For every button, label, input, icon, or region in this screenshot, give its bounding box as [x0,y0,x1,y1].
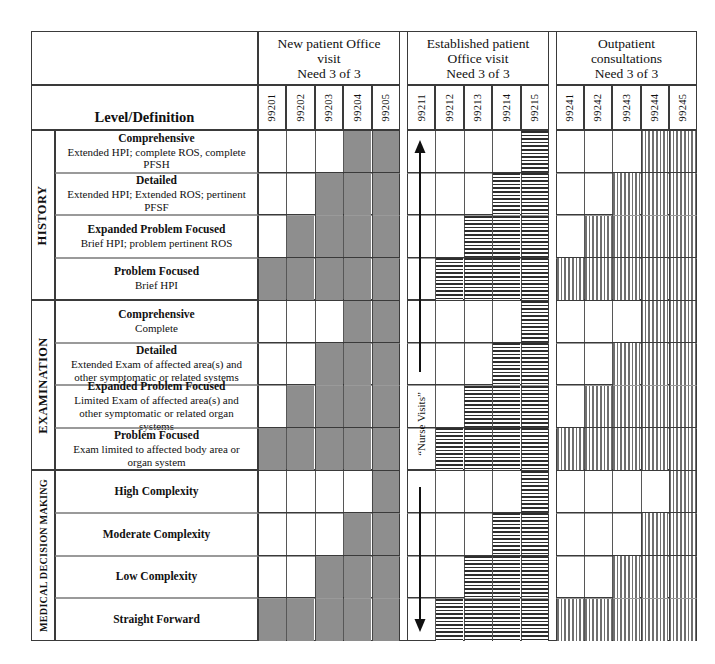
marked-cell-99201[interactable] [259,599,286,641]
marked-cell-99215[interactable] [521,216,548,258]
marked-cell-99201[interactable] [259,258,286,300]
marked-cell-99205[interactable] [372,301,399,343]
marked-cell-99214[interactable] [493,599,520,641]
marked-cell-99205[interactable] [372,599,399,641]
marked-cell-99204[interactable] [344,173,371,215]
marked-cell-99204[interactable] [344,301,371,343]
marked-cell-99203[interactable] [315,216,342,258]
marked-cell-99213[interactable] [464,216,491,258]
marked-cell-99204[interactable] [344,599,371,641]
marked-cell-99244[interactable] [641,131,668,173]
marked-cell-99244[interactable] [641,386,668,428]
marked-cell-99243[interactable] [613,386,640,428]
marked-cell-99215[interactable] [521,301,548,343]
marked-cell-99205[interactable] [372,173,399,215]
marked-cell-99215[interactable] [521,131,548,173]
code-header-99203[interactable]: 99203 [315,85,343,130]
marked-cell-99245[interactable] [669,471,696,513]
marked-cell-99202[interactable] [287,216,314,258]
code-header-99215[interactable]: 99215 [521,85,549,130]
code-header-99201[interactable]: 99201 [258,85,286,130]
marked-cell-99245[interactable] [669,258,696,300]
marked-cell-99213[interactable] [464,258,491,300]
marked-cell-99241[interactable] [557,599,584,641]
marked-cell-99213[interactable] [464,386,491,428]
marked-cell-99205[interactable] [372,131,399,173]
marked-cell-99245[interactable] [669,428,696,470]
marked-cell-99244[interactable] [641,513,668,555]
marked-cell-99203[interactable] [315,258,342,300]
marked-cell-99245[interactable] [669,556,696,598]
marked-cell-99202[interactable] [287,386,314,428]
marked-cell-99214[interactable] [493,216,520,258]
code-header-99212[interactable]: 99212 [435,85,463,130]
code-header-99204[interactable]: 99204 [343,85,371,130]
marked-cell-99242[interactable] [585,216,612,258]
marked-cell-99202[interactable] [287,599,314,641]
marked-cell-99203[interactable] [315,386,342,428]
code-header-99213[interactable]: 99213 [464,85,492,130]
marked-cell-99243[interactable] [613,173,640,215]
marked-cell-99214[interactable] [493,173,520,215]
marked-cell-99205[interactable] [372,386,399,428]
marked-cell-99245[interactable] [669,386,696,428]
code-header-99202[interactable]: 99202 [286,85,314,130]
marked-cell-99242[interactable] [585,428,612,470]
marked-cell-99244[interactable] [641,173,668,215]
marked-cell-99203[interactable] [315,599,342,641]
code-header-99242[interactable]: 99242 [584,85,612,130]
marked-cell-99245[interactable] [669,343,696,385]
marked-cell-99243[interactable] [613,556,640,598]
marked-cell-99245[interactable] [669,513,696,555]
marked-cell-99204[interactable] [344,216,371,258]
code-header-99245[interactable]: 99245 [669,85,697,130]
marked-cell-99213[interactable] [464,599,491,641]
marked-cell-99202[interactable] [287,258,314,300]
marked-cell-99203[interactable] [315,556,342,598]
marked-cell-99205[interactable] [372,343,399,385]
marked-cell-99204[interactable] [344,343,371,385]
marked-cell-99243[interactable] [613,428,640,470]
marked-cell-99203[interactable] [315,428,342,470]
marked-cell-99242[interactable] [585,599,612,641]
marked-cell-99204[interactable] [344,513,371,555]
marked-cell-99215[interactable] [521,513,548,555]
marked-cell-99215[interactable] [521,471,548,513]
marked-cell-99212[interactable] [436,258,463,300]
marked-cell-99215[interactable] [521,428,548,470]
marked-cell-99243[interactable] [613,216,640,258]
marked-cell-99204[interactable] [344,131,371,173]
marked-cell-99214[interactable] [493,386,520,428]
marked-cell-99214[interactable] [493,513,520,555]
marked-cell-99241[interactable] [557,258,584,300]
marked-cell-99205[interactable] [372,258,399,300]
marked-cell-99243[interactable] [613,258,640,300]
marked-cell-99245[interactable] [669,173,696,215]
marked-cell-99215[interactable] [521,386,548,428]
marked-cell-99205[interactable] [372,216,399,258]
marked-cell-99244[interactable] [641,428,668,470]
marked-cell-99244[interactable] [641,556,668,598]
marked-cell-99213[interactable] [464,428,491,470]
marked-cell-99245[interactable] [669,216,696,258]
marked-cell-99244[interactable] [641,216,668,258]
marked-cell-99245[interactable] [669,301,696,343]
marked-cell-99205[interactable] [372,513,399,555]
marked-cell-99205[interactable] [372,556,399,598]
marked-cell-99212[interactable] [436,428,463,470]
marked-cell-99204[interactable] [344,386,371,428]
marked-cell-99205[interactable] [372,471,399,513]
marked-cell-99205[interactable] [372,428,399,470]
code-header-99205[interactable]: 99205 [372,85,400,130]
code-header-99241[interactable]: 99241 [556,85,584,130]
marked-cell-99244[interactable] [641,301,668,343]
marked-cell-99214[interactable] [493,428,520,470]
marked-cell-99215[interactable] [521,173,548,215]
marked-cell-99245[interactable] [669,131,696,173]
marked-cell-99213[interactable] [464,556,491,598]
marked-cell-99203[interactable] [315,173,342,215]
marked-cell-99215[interactable] [521,343,548,385]
marked-cell-99204[interactable] [344,258,371,300]
marked-cell-99214[interactable] [493,556,520,598]
marked-cell-99215[interactable] [521,258,548,300]
